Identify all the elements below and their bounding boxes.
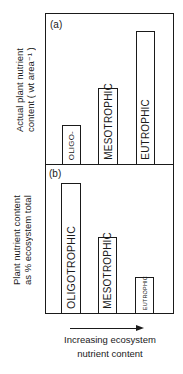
panel-a-ylabel: Actual plant nutrient content ( wt area⁻… (14, 45, 36, 135)
panel-divider (45, 164, 174, 165)
xaxis-label-line2: nutrient content (45, 348, 175, 359)
bar-a-mesotrophic-label: MESOTROPHIC (103, 83, 114, 160)
bar-b-oligotrophic-label: OLIGOTROPHIC (65, 226, 77, 309)
panel-b-label: (b) (49, 168, 61, 179)
bar-b-eutrophic-label: EUTROPHIC (142, 276, 148, 310)
bar-a-eutrophic-label: EUTROPHIC (140, 99, 151, 160)
panel-b-ylabel: Plant nutrient content as % ecosystem to… (11, 190, 33, 290)
panel-b-ylabel-line2: as % ecosystem total (22, 195, 33, 285)
panel-a-label: (a) (50, 19, 62, 30)
arrow-right-icon (136, 325, 144, 331)
bar-a-oligo-label: OLIGO- (67, 131, 76, 160)
panel-a-ylabel-line2: content ( wt area⁻¹ ) (25, 48, 36, 133)
xaxis-label-line1: Increasing ecosystem (45, 334, 175, 345)
bar-a-oligo: OLIGO- (62, 125, 81, 164)
panel-b-ylabel-line1: Plant nutrient content (11, 195, 22, 285)
bar-b-oligotrophic: OLIGOTROPHIC (61, 183, 81, 313)
increasing-arrow-shaft (70, 328, 138, 329)
bar-a-mesotrophic: MESOTROPHIC (98, 88, 118, 164)
bar-b-eutrophic: EUTROPHIC (135, 277, 154, 313)
bar-a-eutrophic: EUTROPHIC (136, 31, 155, 164)
panel-a-ylabel-line1: Actual plant nutrient (14, 48, 25, 132)
bar-b-mesotrophic-label: MESOTROPHIC (102, 232, 113, 309)
bar-b-mesotrophic: MESOTROPHIC (98, 237, 117, 313)
